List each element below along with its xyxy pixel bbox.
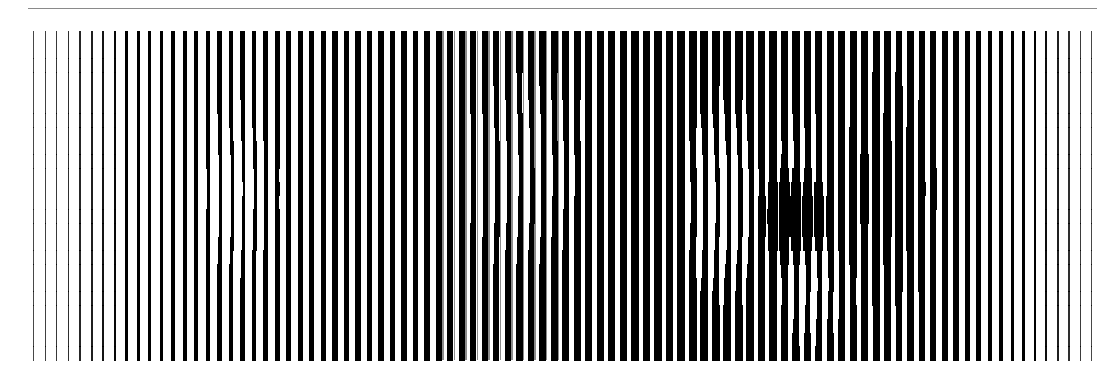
- vertical-line: [953, 31, 959, 360]
- vertical-line: [585, 31, 592, 360]
- vertical-line: [56, 31, 57, 360]
- vertical-line: [735, 31, 743, 360]
- vertical-line: [712, 31, 720, 360]
- moire-line: [454, 31, 456, 360]
- vertical-line: [344, 31, 350, 360]
- moire-line: [465, 31, 467, 360]
- vertical-line: [68, 31, 70, 360]
- vertical-line: [689, 31, 697, 360]
- vertical-line: [562, 31, 569, 360]
- vertical-line: [965, 31, 970, 360]
- vertical-line: [252, 31, 257, 360]
- vertical-line: [171, 31, 175, 360]
- moire-line: [557, 31, 559, 360]
- vertical-line: [942, 31, 948, 360]
- moire-line: [534, 31, 536, 360]
- vertical-line: [838, 31, 845, 360]
- vertical-line: [309, 31, 314, 360]
- moire-line: [477, 31, 479, 360]
- vertical-line: [643, 31, 651, 360]
- vertical-line: [850, 31, 857, 360]
- vertical-line: [804, 31, 811, 360]
- moire-line: [500, 31, 502, 360]
- vertical-line: [91, 31, 93, 360]
- vertical-line: [137, 31, 140, 360]
- vertical-line: [298, 31, 303, 360]
- line-pattern-artwork: [0, 31, 1111, 360]
- vertical-line: [45, 31, 46, 360]
- vertical-line: [413, 31, 419, 360]
- vertical-line: [631, 31, 639, 360]
- vertical-line: [470, 31, 476, 360]
- vertical-line: [148, 31, 151, 360]
- vertical-line: [482, 31, 488, 360]
- moire-line: [488, 31, 490, 360]
- vertical-line: [102, 31, 104, 360]
- vertical-line: [160, 31, 164, 360]
- moire-line: [523, 31, 525, 360]
- vertical-line: [125, 31, 128, 360]
- vertical-line: [999, 31, 1003, 360]
- vertical-line: [1022, 31, 1025, 360]
- vertical-line: [1091, 31, 1092, 360]
- vertical-line: [884, 31, 891, 360]
- vertical-line: [769, 31, 777, 360]
- vertical-line: [229, 31, 234, 360]
- vertical-line: [378, 31, 384, 360]
- vertical-line: [240, 31, 245, 360]
- vertical-line: [976, 31, 981, 360]
- vertical-line: [746, 31, 754, 360]
- vertical-line: [654, 31, 662, 360]
- moire-line: [546, 31, 548, 360]
- vertical-line: [194, 31, 198, 360]
- moire-line: [442, 31, 444, 360]
- vertical-line: [896, 31, 903, 360]
- vertical-line: [1057, 31, 1059, 360]
- vertical-line: [758, 31, 766, 360]
- vertical-line: [436, 31, 442, 360]
- vertical-line: [723, 31, 731, 360]
- vertical-line: [114, 31, 117, 360]
- vertical-line: [988, 31, 992, 360]
- moire-line: [511, 31, 513, 360]
- vertical-line: [792, 31, 800, 360]
- vertical-line: [930, 31, 936, 360]
- vertical-line: [206, 31, 210, 360]
- vertical-line: [700, 31, 708, 360]
- vertical-line: [79, 31, 81, 360]
- vertical-line: [608, 31, 615, 360]
- top-rule: [28, 8, 1097, 9]
- vertical-line: [424, 31, 430, 360]
- vertical-line: [447, 31, 453, 360]
- vertical-line: [919, 31, 925, 360]
- vertical-line: [861, 31, 868, 360]
- vertical-line: [677, 31, 685, 360]
- vertical-line: [907, 31, 914, 360]
- vertical-line: [1068, 31, 1070, 360]
- vertical-line: [275, 31, 280, 360]
- vertical-line: [286, 31, 291, 360]
- vertical-line: [459, 31, 465, 360]
- vertical-line: [367, 31, 373, 360]
- vertical-line: [332, 31, 338, 360]
- vertical-line: [873, 31, 880, 360]
- vertical-line: [321, 31, 326, 360]
- vertical-line: [183, 31, 187, 360]
- vertical-line: [827, 31, 834, 360]
- vertical-line: [33, 31, 34, 360]
- vertical-line: [781, 31, 789, 360]
- vertical-line: [666, 31, 674, 360]
- vertical-line: [401, 31, 407, 360]
- vertical-line: [355, 31, 361, 360]
- vertical-line: [390, 31, 396, 360]
- vertical-line: [597, 31, 604, 360]
- vertical-line: [493, 31, 499, 360]
- vertical-line: [1011, 31, 1015, 360]
- vertical-line: [263, 31, 268, 360]
- vertical-line: [574, 31, 581, 360]
- vertical-line: [1034, 31, 1037, 360]
- vertical-line: [1080, 31, 1081, 360]
- vertical-line: [217, 31, 222, 360]
- vertical-line: [815, 31, 822, 360]
- vertical-line: [620, 31, 627, 360]
